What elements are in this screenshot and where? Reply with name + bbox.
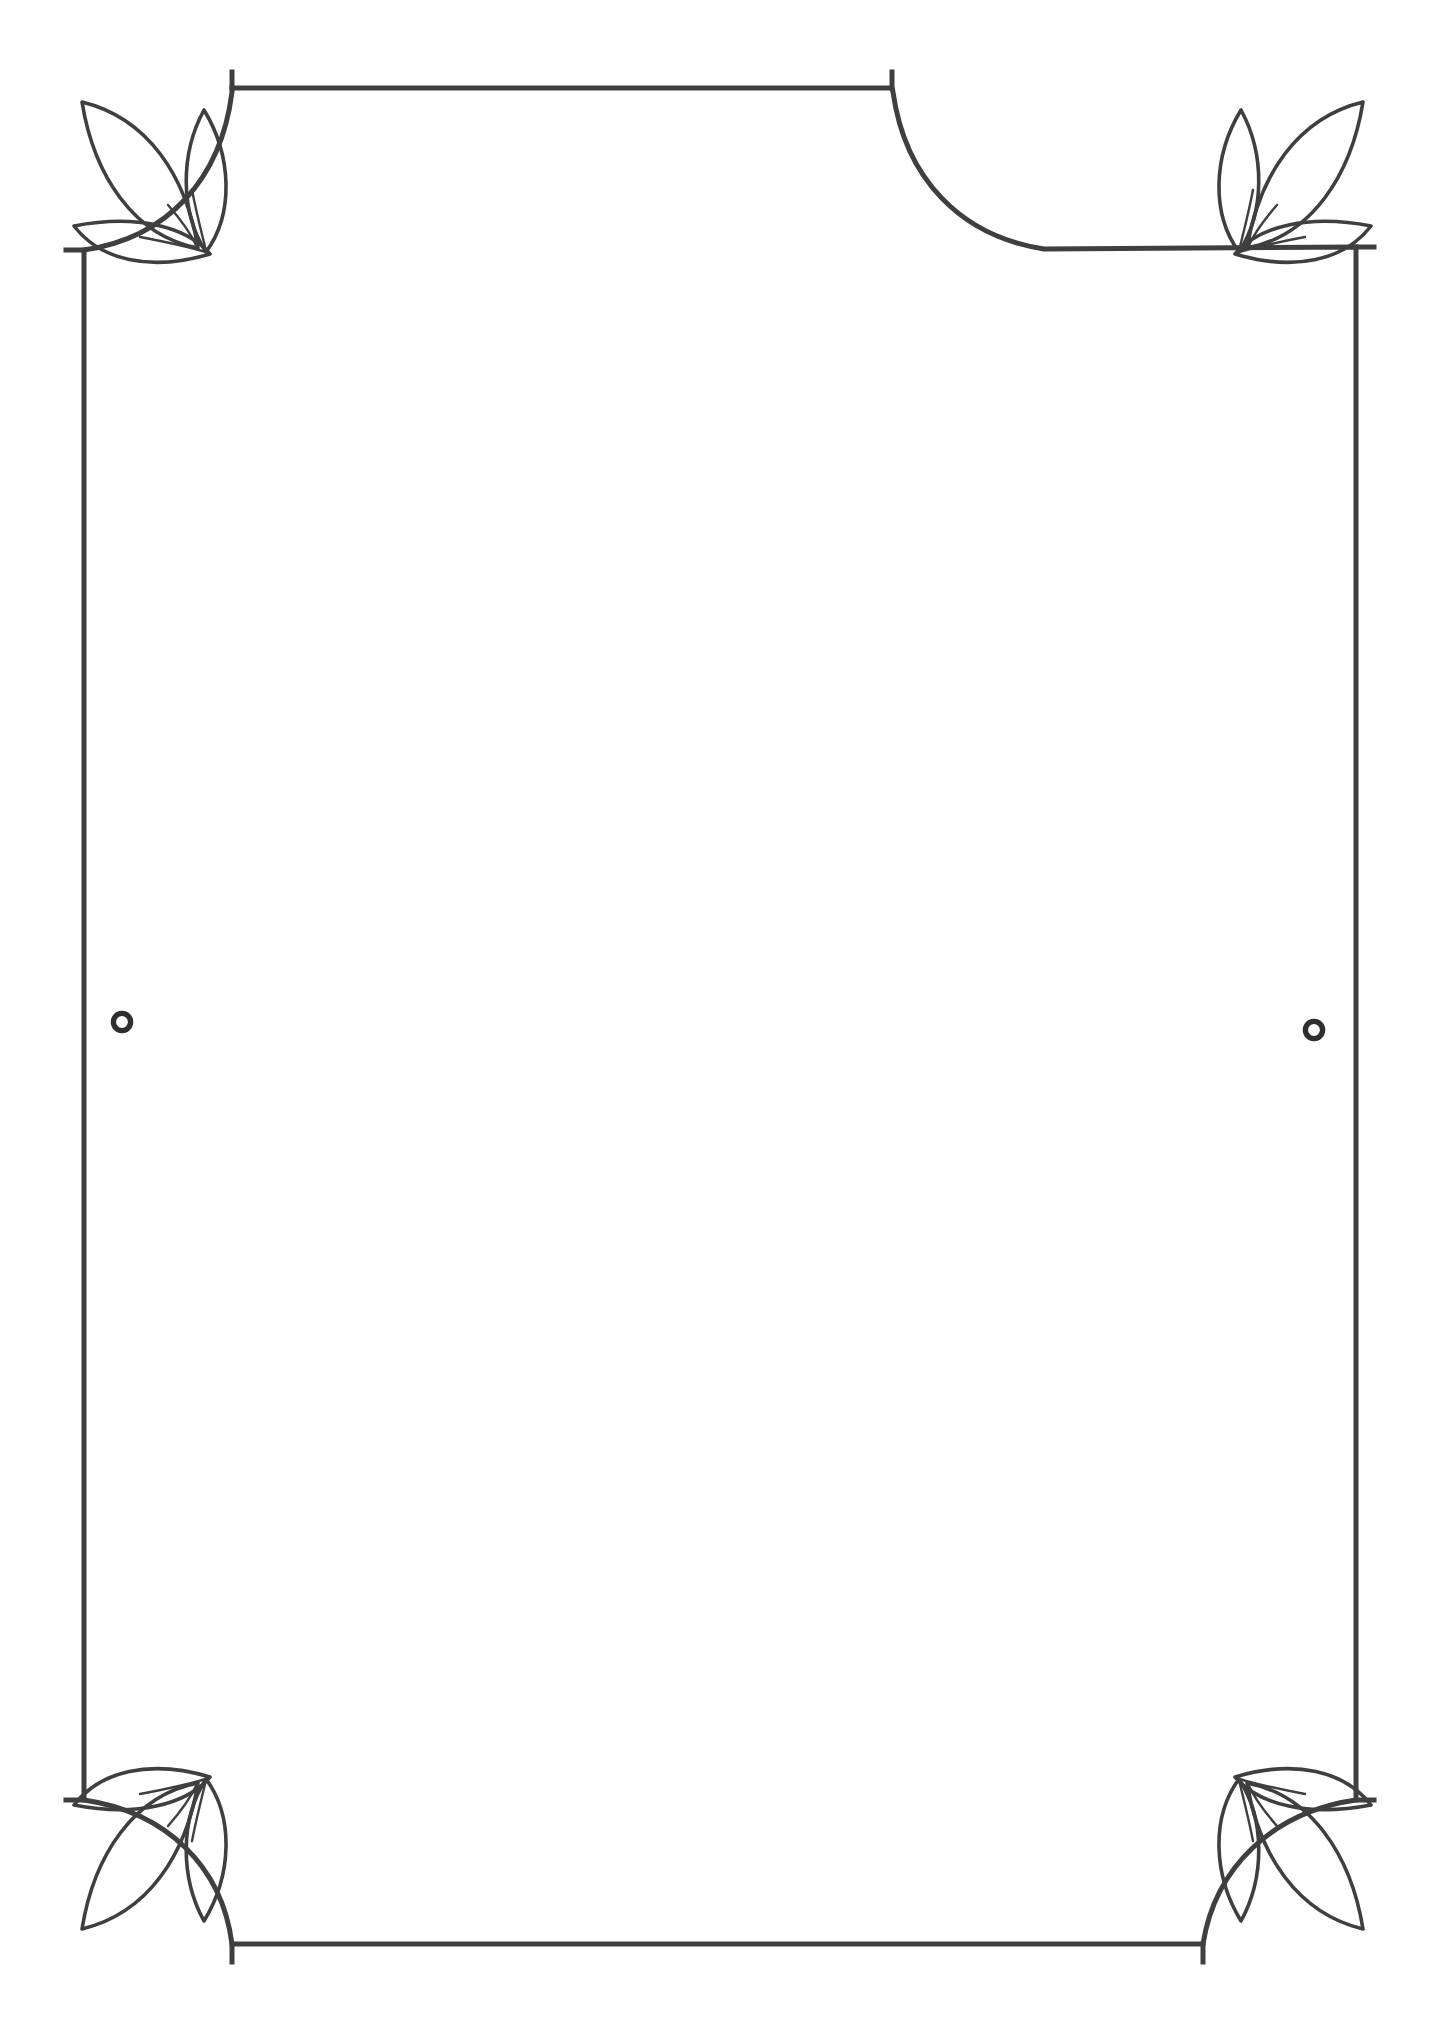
frame-interior-content: [150, 150, 1295, 1880]
page-canvas: [0, 0, 1445, 2031]
